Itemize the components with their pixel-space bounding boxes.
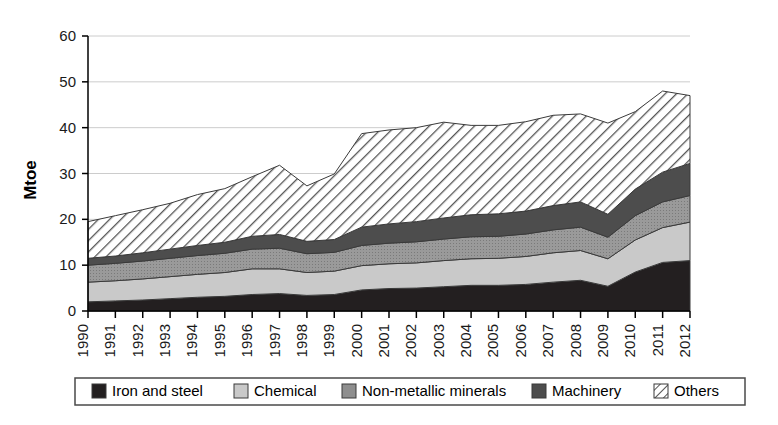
x-axis-tick-label: 1994 bbox=[183, 324, 200, 357]
y-axis-tick-label: 10 bbox=[59, 256, 76, 273]
x-axis-tick-label: 1990 bbox=[74, 324, 91, 357]
y-axis-tick-label: 60 bbox=[59, 27, 76, 44]
legend-swatch-machinery bbox=[532, 384, 546, 398]
x-axis-tick-label: 2012 bbox=[676, 324, 693, 357]
y-axis-tick-label: 0 bbox=[68, 302, 76, 319]
y-axis-tick-label: 20 bbox=[59, 210, 76, 227]
x-axis-tick-label: 1996 bbox=[238, 324, 255, 357]
y-axis-tick-labels: 0102030405060 bbox=[59, 27, 76, 319]
x-axis-tick-label: 1992 bbox=[129, 324, 146, 357]
x-axis-tick-labels: 1990199119921993199419951996199719981999… bbox=[74, 324, 693, 357]
legend-label-iron-and-steel: Iron and steel bbox=[112, 382, 203, 399]
x-axis-tick-label: 2005 bbox=[484, 324, 501, 357]
x-axis-tick-label: 2002 bbox=[402, 324, 419, 357]
x-axis-tick-label: 2003 bbox=[430, 324, 447, 357]
x-axis-tick-label: 1997 bbox=[266, 324, 283, 357]
y-axis-tick-label: 40 bbox=[59, 119, 76, 136]
x-axis-tick-label: 2007 bbox=[539, 324, 556, 357]
x-axis-tick-label: 1993 bbox=[156, 324, 173, 357]
legend-swatch-non-metallic-minerals bbox=[342, 384, 356, 398]
y-axis-tick-label: 50 bbox=[59, 73, 76, 90]
stacked-area-chart: 0102030405060 19901991199219931994199519… bbox=[0, 0, 778, 425]
x-axis-tick-label: 2009 bbox=[594, 324, 611, 357]
x-axis-tick-label: 1998 bbox=[293, 324, 310, 357]
legend-swatch-others bbox=[654, 384, 668, 398]
y-axis-title: Mtoe bbox=[21, 160, 40, 200]
legend-label-others: Others bbox=[674, 382, 719, 399]
y-axis-tick-label: 30 bbox=[59, 165, 76, 182]
x-axis-tick-label: 1995 bbox=[211, 324, 228, 357]
x-axis-tick-label: 2004 bbox=[457, 324, 474, 357]
x-axis-tick-label: 2006 bbox=[512, 324, 529, 357]
legend-label-chemical: Chemical bbox=[254, 382, 317, 399]
legend-swatch-iron-and-steel bbox=[92, 384, 106, 398]
x-axis-tick-label: 2010 bbox=[621, 324, 638, 357]
x-axis-tick-label: 2000 bbox=[348, 324, 365, 357]
legend-label-machinery: Machinery bbox=[552, 382, 622, 399]
x-axis-tick-label: 2008 bbox=[567, 324, 584, 357]
x-axis-tick-label: 2011 bbox=[649, 324, 666, 356]
x-axis-tick-label: 1999 bbox=[320, 324, 337, 357]
x-axis-tick-label: 1991 bbox=[101, 324, 118, 357]
legend-swatch-chemical bbox=[234, 384, 248, 398]
x-axis-tick-label: 2001 bbox=[375, 324, 392, 357]
chart-legend: Iron and steelChemicalNon-metallic miner… bbox=[75, 378, 745, 405]
chart-container: 0102030405060 19901991199219931994199519… bbox=[0, 0, 778, 425]
legend-label-non-metallic-minerals: Non-metallic minerals bbox=[362, 382, 506, 399]
area-series-layer bbox=[88, 91, 690, 311]
